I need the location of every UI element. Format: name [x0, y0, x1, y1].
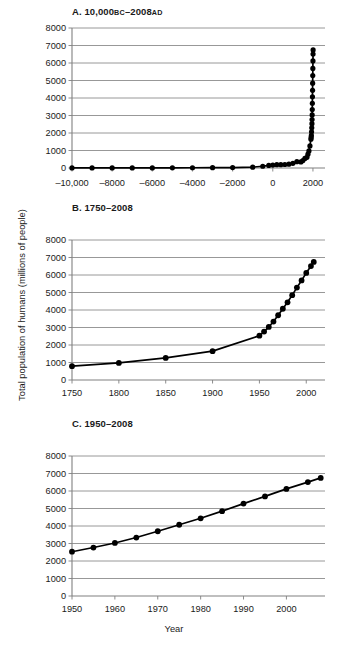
data-point-marker	[89, 165, 94, 170]
data-point-marker	[260, 164, 265, 169]
x-tick-label: 1850	[155, 388, 175, 398]
caption-fragment	[38, 641, 338, 648]
y-tick-label: 7000	[46, 41, 66, 51]
x-tick-label: 1900	[202, 388, 222, 398]
y-tick-label: 2000	[46, 556, 66, 566]
data-point-marker	[310, 94, 315, 99]
y-tick-label: 3000	[46, 111, 66, 121]
data-point-marker	[91, 545, 97, 551]
y-tick-label: 1000	[46, 574, 66, 584]
y-tick-label: 8000	[46, 451, 66, 461]
y-tick-label: 7000	[46, 469, 66, 479]
data-point-marker	[294, 285, 300, 291]
y-tick-label: 3000	[46, 539, 66, 549]
data-point-marker	[150, 165, 155, 170]
data-point-marker	[310, 58, 315, 63]
y-tick-label: 2000	[46, 128, 66, 138]
data-point-marker	[110, 165, 115, 170]
data-point-marker	[303, 270, 309, 276]
x-tick-label: 0	[270, 178, 275, 188]
data-point-marker	[280, 306, 286, 312]
x-tick-label: 1950	[62, 604, 82, 614]
data-point-marker	[284, 486, 290, 492]
data-point-marker	[130, 165, 135, 170]
x-tick-label: 1950	[249, 388, 269, 398]
data-point-marker	[299, 278, 305, 284]
panel-a-plot: 010002000300040005000600070008000–10,000…	[0, 0, 348, 196]
data-point-marker	[250, 165, 255, 170]
data-point-marker	[306, 148, 311, 153]
data-point-marker	[210, 348, 216, 354]
data-point-marker	[170, 165, 175, 170]
data-point-marker	[163, 355, 169, 361]
data-point-marker	[310, 107, 315, 112]
data-point-marker	[310, 66, 315, 71]
x-tick-label: 1990	[233, 604, 253, 614]
y-tick-label: 0	[61, 591, 66, 601]
data-point-marker	[133, 535, 139, 541]
data-point-marker	[176, 522, 182, 528]
x-tick-label: 1960	[105, 604, 125, 614]
x-tick-label: 2000	[276, 604, 296, 614]
data-point-marker	[310, 101, 315, 106]
x-tick-label: –8000	[99, 178, 125, 188]
data-point-marker	[271, 319, 277, 325]
data-point-marker	[230, 165, 235, 170]
y-tick-label: 2000	[46, 340, 66, 350]
x-tick-label: 1980	[190, 604, 210, 614]
data-point-marker	[210, 165, 215, 170]
x-tick-label: –4000	[180, 178, 206, 188]
y-tick-label: 8000	[46, 23, 66, 33]
y-tick-label: 6000	[46, 270, 66, 280]
data-point-marker	[112, 540, 118, 546]
y-tick-label: 6000	[46, 486, 66, 496]
panel-c-plot: 0100020003000400050006000700080001950196…	[0, 412, 348, 628]
data-point-marker	[307, 143, 312, 148]
panel-b-plot: 0100020003000400050006000700080001750180…	[0, 196, 348, 412]
y-tick-label: 5000	[46, 504, 66, 514]
data-point-marker	[198, 515, 204, 521]
y-tick-label: 6000	[46, 58, 66, 68]
data-point-marker	[241, 501, 247, 507]
y-tick-label: 1000	[46, 358, 66, 368]
y-tick-label: 1000	[46, 146, 66, 156]
y-tick-label: 0	[61, 163, 66, 173]
x-tick-label: 1750	[62, 388, 82, 398]
x-tick-label: –6000	[140, 178, 166, 188]
chart-panel-c: C. 1950–2008 010002000300040005000600070…	[0, 412, 348, 628]
data-point-marker	[69, 165, 74, 170]
x-tick-label: 1800	[109, 388, 129, 398]
data-point-marker	[275, 312, 281, 318]
data-point-marker	[310, 112, 315, 117]
y-tick-label: 5000	[46, 76, 66, 86]
data-point-marker	[69, 363, 75, 369]
y-tick-label: 4000	[46, 521, 66, 531]
data-point-marker	[219, 508, 225, 514]
y-tick-label: 7000	[46, 253, 66, 263]
y-axis-label: Total population of humans (millions of …	[17, 155, 27, 455]
data-point-marker	[116, 360, 122, 366]
data-point-marker	[262, 494, 268, 500]
x-axis-label: Year	[0, 624, 348, 634]
data-point-marker	[311, 259, 317, 265]
data-point-marker	[190, 165, 195, 170]
data-point-marker	[266, 324, 272, 330]
data-point-marker	[311, 47, 316, 52]
data-point-marker	[310, 73, 315, 78]
x-tick-label: 2000	[296, 388, 316, 398]
data-point-marker	[257, 333, 263, 339]
x-tick-label: –10,000	[55, 178, 88, 188]
y-tick-label: 0	[61, 375, 66, 385]
x-tick-label: –2000	[220, 178, 246, 188]
y-tick-label: 5000	[46, 288, 66, 298]
data-point-marker	[285, 299, 291, 305]
y-tick-label: 4000	[46, 305, 66, 315]
x-tick-label: 1970	[148, 604, 168, 614]
population-growth-figure: A. 10,000BC–2008AD 010002000300040005000…	[0, 0, 348, 650]
y-tick-label: 3000	[46, 323, 66, 333]
data-point-marker	[318, 475, 324, 481]
data-point-marker	[261, 329, 267, 335]
data-point-marker	[309, 117, 314, 122]
data-point-marker	[310, 81, 315, 86]
chart-panel-a: A. 10,000BC–2008AD 010002000300040005000…	[0, 0, 348, 196]
